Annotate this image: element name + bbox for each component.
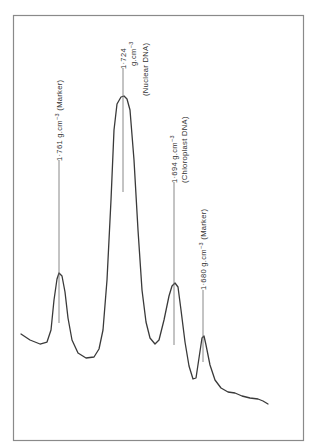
- density-value: 1·761: [55, 140, 64, 161]
- unit-exponent: −3: [128, 41, 134, 48]
- density-unit: g.cm: [55, 120, 64, 138]
- label-1694: 1·694 g.cm−3: [169, 135, 179, 183]
- density-value: 1·724: [119, 48, 128, 69]
- unit-exponent: −3: [169, 135, 175, 142]
- density-gradient-chart: 1·761 g.cm−3 (Marker) 1·724 g.cm−3 (Nucl…: [0, 0, 318, 448]
- density-unit: g.cm: [129, 48, 138, 66]
- peak-note: (Nuclear DNA): [141, 43, 150, 96]
- label-1761: 1·761 g.cm−3 (Marker): [54, 79, 64, 161]
- peak-note: (Marker): [55, 79, 64, 110]
- peak-note: (Chloroplast DNA): [180, 116, 189, 183]
- figure-frame: [14, 16, 304, 441]
- density-unit: g.cm: [199, 249, 208, 267]
- density-unit: g.cm: [170, 142, 179, 160]
- label-1724-value: 1·724: [119, 48, 128, 69]
- label-1724-note: (Nuclear DNA): [141, 43, 150, 96]
- peak-note: (Marker): [199, 208, 208, 239]
- unit-exponent: −3: [54, 113, 60, 120]
- unit-exponent: −3: [198, 242, 204, 249]
- label-1694-note: (Chloroplast DNA): [180, 116, 189, 183]
- density-value: 1·694: [170, 162, 179, 183]
- density-value: 1·680: [199, 269, 208, 290]
- label-1680: 1·680 g.cm−3 (Marker): [198, 208, 208, 290]
- label-1724-unit: g.cm−3: [128, 41, 138, 66]
